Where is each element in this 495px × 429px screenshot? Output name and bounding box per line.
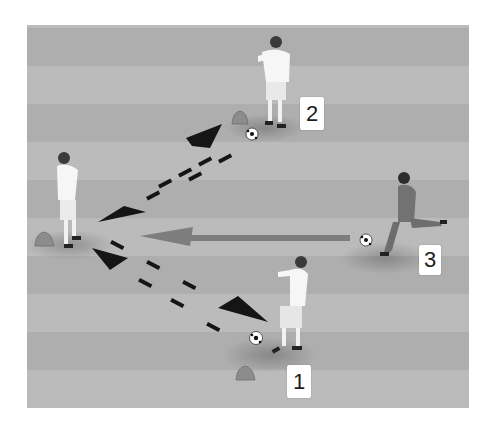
player-2-label: 2 <box>300 97 324 130</box>
shadow <box>340 242 430 274</box>
player-3-figure <box>380 172 447 256</box>
player-1-label: 1 <box>287 365 311 398</box>
drill-diagram: 2 3 1 <box>0 0 495 429</box>
pass-arrow-from-player-1 <box>92 240 220 332</box>
pass-arrow-from-player-2 <box>98 153 232 222</box>
ball-icon <box>360 234 372 246</box>
ball-icon <box>246 128 258 140</box>
cone-icon <box>232 111 248 124</box>
player-3-label: 3 <box>419 245 441 275</box>
run-arrow <box>140 227 350 246</box>
drill-graphics <box>0 0 495 429</box>
ball-icon <box>250 332 263 345</box>
pass-arrow-to-player-1 <box>138 278 268 322</box>
